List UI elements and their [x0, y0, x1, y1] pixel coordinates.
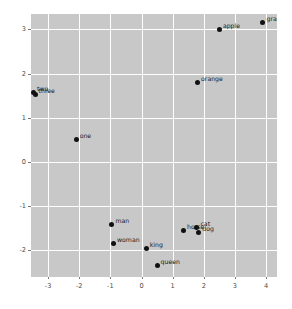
gridline-vertical — [48, 14, 49, 277]
data-point — [260, 20, 265, 25]
point-label: one — [80, 133, 92, 139]
data-point — [33, 92, 38, 97]
point-label: three — [39, 88, 55, 94]
point-label: orange — [201, 76, 223, 82]
gridline-vertical — [142, 14, 143, 277]
gridline-horizontal — [31, 74, 277, 75]
gridline-vertical — [204, 14, 205, 277]
point-label: woman — [117, 237, 140, 243]
data-point — [195, 80, 200, 85]
y-tick-mark — [28, 250, 31, 251]
x-tick-mark — [204, 277, 205, 279]
gridline-horizontal — [31, 206, 277, 207]
data-point — [111, 241, 116, 246]
point-label: dog — [202, 226, 214, 232]
y-tick-label: 2 — [22, 70, 26, 78]
gridline-horizontal — [31, 162, 277, 163]
data-point — [144, 246, 149, 251]
data-point — [109, 222, 114, 227]
gridline-horizontal — [31, 250, 277, 251]
point-label: man — [115, 218, 129, 224]
data-point — [217, 27, 222, 32]
x-tick-mark — [235, 277, 236, 279]
y-tick-label: -1 — [19, 202, 26, 210]
scatter-plot-figure: grapeappleorangetwothreeonemanwomankingq… — [0, 0, 292, 309]
y-tick-mark — [28, 162, 31, 163]
x-tick-mark — [79, 277, 80, 279]
y-tick-label: 3 — [22, 25, 26, 33]
x-tick-mark — [48, 277, 49, 279]
y-tick-mark — [28, 206, 31, 207]
x-tick-label: -2 — [76, 282, 83, 290]
y-tick-mark — [28, 74, 31, 75]
data-point — [181, 228, 186, 233]
x-tick-mark — [142, 277, 143, 279]
point-label: king — [150, 242, 163, 248]
y-tick-label: 0 — [22, 158, 26, 166]
x-tick-mark — [173, 277, 174, 279]
x-tick-label: -3 — [45, 282, 52, 290]
y-tick-mark — [28, 29, 31, 30]
data-point — [155, 263, 160, 268]
point-label: grape — [266, 16, 277, 22]
y-tick-mark — [28, 118, 31, 119]
gridline-vertical — [79, 14, 80, 277]
point-label: apple — [223, 23, 240, 29]
gridline-horizontal — [31, 29, 277, 30]
x-tick-label: 4 — [264, 282, 268, 290]
x-tick-label: -1 — [107, 282, 114, 290]
gridline-horizontal — [31, 118, 277, 119]
gridline-vertical — [173, 14, 174, 277]
gridline-vertical — [110, 14, 111, 277]
x-tick-label: 1 — [171, 282, 175, 290]
y-tick-label: 1 — [22, 114, 26, 122]
point-label: queen — [161, 259, 180, 265]
data-point — [196, 230, 201, 235]
gridline-vertical — [235, 14, 236, 277]
x-tick-mark — [110, 277, 111, 279]
x-tick-label: 2 — [202, 282, 206, 290]
x-tick-label: 0 — [139, 282, 143, 290]
data-point — [74, 137, 79, 142]
x-tick-mark — [266, 277, 267, 279]
plot-panel: grapeappleorangetwothreeonemanwomankingq… — [31, 14, 277, 277]
x-tick-label: 3 — [233, 282, 237, 290]
gridline-vertical — [266, 14, 267, 277]
y-tick-label: -2 — [19, 246, 26, 254]
